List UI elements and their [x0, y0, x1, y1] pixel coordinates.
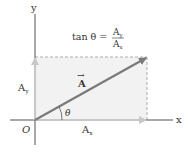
formula-numerator: Ay	[112, 27, 124, 39]
formula-lhs: tan θ =	[72, 31, 107, 42]
x-axis-label: x	[176, 114, 182, 125]
vector-diagram: y x O θ → A Ay Ax tan θ = Ay Ax	[0, 0, 189, 153]
y-axis-label: y	[30, 2, 37, 13]
origin-label: O	[22, 124, 30, 135]
ax-label: Ax	[81, 124, 93, 136]
vector-a-label: A	[77, 78, 86, 89]
angle-theta-label: θ	[65, 108, 71, 118]
formula-denominator: Ax	[112, 39, 124, 50]
ay-label: Ay	[17, 82, 29, 95]
